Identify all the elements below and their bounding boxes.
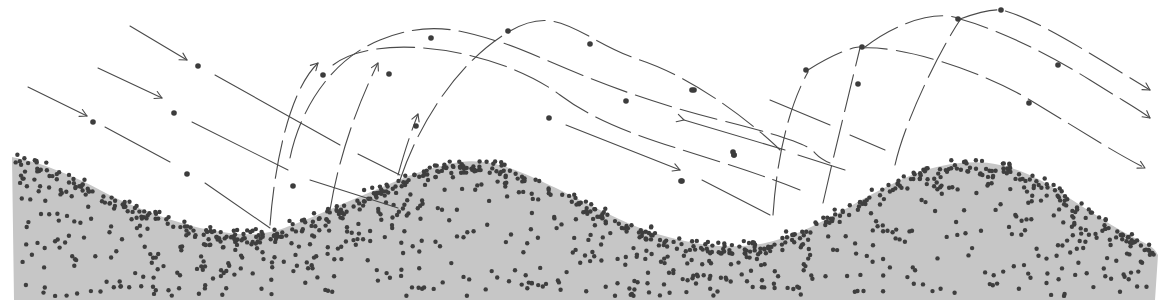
sand-grain: [992, 273, 996, 277]
sand-grain: [936, 171, 940, 175]
sand-grain: [82, 178, 86, 182]
sand-grain: [399, 241, 403, 245]
sand-grain: [1109, 277, 1113, 281]
sand-grain: [894, 227, 898, 231]
sand-grain: [696, 274, 700, 278]
sand-grain: [513, 268, 517, 272]
sand-grain: [870, 260, 874, 264]
sand-grain: [986, 175, 990, 179]
arrowhead-icon: [1142, 83, 1150, 90]
sand-grain: [806, 256, 810, 260]
descending-trajectory: [566, 125, 680, 170]
sand-grain: [685, 278, 689, 282]
sand-grain: [449, 171, 453, 175]
sand-grain: [604, 285, 608, 289]
sand-grain: [280, 230, 284, 234]
sand-grain: [825, 220, 829, 224]
sand-grain: [503, 175, 507, 179]
sand-grain: [43, 199, 47, 203]
sand-grain: [311, 220, 315, 224]
sand-grain: [657, 243, 661, 247]
sand-grain: [693, 247, 697, 251]
sand-grain: [974, 191, 978, 195]
sand-grain: [764, 251, 768, 255]
sand-grain: [379, 192, 383, 196]
sand-grain: [219, 274, 223, 278]
sand-grain: [133, 271, 137, 275]
sand-grain: [531, 197, 535, 201]
sand-grain: [272, 228, 276, 232]
sand-grain: [270, 265, 274, 269]
sand-grain: [772, 282, 776, 286]
sand-grain: [55, 212, 59, 216]
sand-grain: [1030, 194, 1034, 198]
sand-grain: [35, 241, 39, 245]
sand-grain: [591, 217, 595, 221]
sand-grain: [921, 282, 925, 286]
sand-grain: [595, 215, 599, 219]
sand-grain: [525, 286, 529, 290]
sand-grain: [912, 282, 916, 286]
sand-grain: [644, 237, 648, 241]
sand-grain: [323, 223, 327, 227]
saltating-grain: [428, 35, 434, 41]
sand-grain: [516, 176, 520, 180]
sand-grain: [435, 169, 439, 173]
sand-grain: [867, 195, 871, 199]
sand-grain: [536, 197, 540, 201]
sand-grain: [909, 177, 913, 181]
sand-grain: [899, 186, 903, 190]
saltation-hop-trajectory: [865, 16, 1150, 118]
sand-grain: [1108, 243, 1112, 247]
sand-grain: [752, 245, 756, 249]
sand-grain: [120, 237, 124, 241]
sand-grain: [1024, 217, 1028, 221]
sand-grain: [254, 235, 258, 239]
sand-grain: [119, 284, 123, 288]
sand-grain: [743, 251, 747, 255]
sand-grain: [401, 251, 405, 255]
sand-grain: [954, 220, 958, 224]
sand-grain: [345, 229, 349, 233]
sand-grain: [57, 245, 61, 249]
sand-grain: [559, 222, 563, 226]
arrowhead-icon: [676, 114, 684, 121]
sand-grain: [374, 195, 378, 199]
sand-grain: [156, 216, 160, 220]
sand-grain: [350, 231, 354, 235]
sand-grain: [918, 171, 922, 175]
sand-grain: [1028, 276, 1032, 280]
sand-grain: [554, 226, 558, 230]
sand-grain: [799, 292, 803, 296]
sand-grain: [711, 293, 715, 297]
sand-grain: [605, 213, 609, 217]
sand-grain: [86, 187, 90, 191]
sand-grain: [905, 275, 909, 279]
sand-grain: [599, 242, 603, 246]
sand-grain: [1087, 233, 1091, 237]
sand-grain: [557, 280, 561, 284]
sand-grain: [1055, 194, 1059, 198]
sand-grain: [305, 260, 309, 264]
sand-grain: [601, 235, 605, 239]
sand-grain: [67, 173, 71, 177]
sand-grain: [1100, 229, 1104, 233]
sand-grain: [1065, 238, 1069, 242]
sand-grain: [340, 211, 344, 215]
sand-grain: [447, 218, 451, 222]
sand-grain: [1147, 243, 1151, 247]
sand-grain: [974, 158, 978, 162]
sand-grain: [442, 188, 446, 192]
sand-grain: [630, 292, 634, 296]
sand-grain: [1056, 277, 1060, 281]
sand-grain: [762, 285, 766, 289]
sand-grain: [871, 243, 875, 247]
sand-grain: [662, 282, 666, 286]
sand-grain: [896, 179, 900, 183]
sand-grain: [1136, 269, 1140, 273]
sand-grain: [959, 168, 963, 172]
sand-grain: [570, 200, 574, 204]
sand-grain: [402, 229, 406, 233]
sand-grain: [613, 219, 617, 223]
sand-grain: [499, 160, 503, 164]
